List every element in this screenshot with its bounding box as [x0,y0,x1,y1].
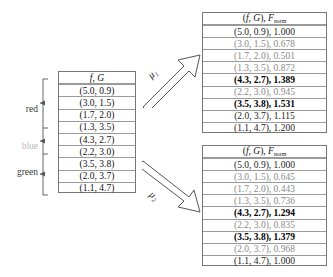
table-row: (5.0, 0.9), 1.000 [203,158,326,170]
result-cell-pair: (4.3, 2.7) [234,75,269,85]
table-row: (2.2, 3.0), 0.835 [203,219,326,231]
source-cell-pair: (4.3, 2.7) [80,135,115,145]
result-header-text: (f, G), Fnorm [243,13,287,24]
table-row: (3.0, 1.5), 0.645 [203,170,326,182]
result-table-bottom: (f, G), Fnorm (5.0, 0.9), 1.000 (3.0, 1.… [202,145,327,266]
result-cell-pair: (1.1, 4.7) [234,256,269,266]
result-table-top: (f, G), Fnorm (5.0, 0.9), 1.000 (3.0, 1.… [202,12,327,133]
table-row: (3.5, 3.8) [59,157,135,169]
result-cell-pair: (2.2, 3.0) [234,87,269,97]
result-cell-pair: (3.0, 1.5) [234,172,269,182]
table-row: (4.3, 2.7), 1.389 [203,73,326,85]
table-row: (4.3, 2.7) [59,133,135,145]
result-cell-pair: (1.7, 2.0) [234,51,269,61]
result-cell-value: 1.115 [274,111,295,121]
table-row: (3.5, 3.8), 1.531 [203,98,326,110]
table-row: (2.2, 3.0) [59,145,135,157]
result-cell-value: 1.294 [274,208,295,218]
table-row: (5.0, 0.9) [59,84,135,96]
table-row: (2.0, 3.7), 0.968 [203,243,326,255]
result-cell-pair: (5.0, 0.9) [234,160,269,170]
result-cell-pair: (2.0, 3.7) [234,244,269,254]
source-header-text: f, G [90,73,104,83]
group-brackets [40,78,60,196]
result-cell-value: 1.531 [274,99,295,109]
table-row: (2.0, 3.7) [59,170,135,182]
table-row: (1.3, 3.5), 0.736 [203,194,326,206]
source-cell-pair: (3.0, 1.5) [80,98,115,108]
result-cell-value: 1.389 [274,75,295,85]
result-cell-value: 1.379 [274,232,295,242]
source-cell-pair: (1.7, 2.0) [80,110,115,120]
result-cell-value: 1.000 [274,256,295,266]
result-cell-value: 1.000 [274,27,295,37]
result-cell-pair: (2.0, 3.7) [234,111,269,121]
result-cell-pair: (1.7, 2.0) [234,184,269,194]
table-row: (4.3, 2.7), 1.294 [203,206,326,218]
result-table-bottom-header: (f, G), Fnorm [203,146,326,158]
result-cell-value: 0.501 [274,51,295,61]
group-label-green: green [2,167,38,177]
result-cell-pair: (3.0, 1.5) [234,39,269,49]
table-row: (3.5, 3.8), 1.379 [203,231,326,243]
table-row: (1.3, 3.5), 0.872 [203,61,326,73]
table-row: (3.0, 1.5), 0.678 [203,37,326,49]
result-table-top-header: (f, G), Fnorm [203,13,326,25]
table-row: (3.0, 1.5) [59,96,135,108]
table-row: (1.1, 4.7) [59,182,135,194]
result-cell-value: 0.968 [274,244,295,254]
result-cell-value: 0.736 [274,196,295,206]
figure-canvas: red blue green f, G (5.0, 0.9) (3.0, 1.5… [0,0,333,277]
result-cell-value: 1.000 [274,160,295,170]
source-cell-pair: (1.1, 4.7) [80,183,115,193]
result-cell-value: 0.645 [274,172,295,182]
source-cell-pair: (1.3, 3.5) [80,122,115,132]
result-cell-value: 0.945 [274,87,295,97]
source-table: f, G (5.0, 0.9) (3.0, 1.5) (1.7, 2.0) (1… [58,71,136,193]
source-cell-pair: (3.5, 3.8) [80,159,115,169]
result-cell-pair: (2.2, 3.0) [234,220,269,230]
result-cell-pair: (4.3, 2.7) [234,208,269,218]
arrow-mu2-icon [142,160,204,216]
result-cell-pair: (1.1, 4.7) [234,123,269,133]
source-cell-pair: (5.0, 0.9) [80,86,115,96]
result-cell-pair: (3.5, 3.8) [234,232,269,242]
result-cell-pair: (3.5, 3.8) [234,99,269,109]
arrow-mu1-icon [142,52,204,108]
table-row: (1.1, 4.7), 1.200 [203,122,326,134]
source-table-header: f, G [59,72,135,84]
result-cell-pair: (1.3, 3.5) [234,63,269,73]
result-cell-value: 1.200 [274,123,295,133]
table-row: (1.7, 2.0), 0.443 [203,182,326,194]
source-cell-pair: (2.2, 3.0) [80,147,115,157]
table-row: (1.7, 2.0), 0.501 [203,49,326,61]
group-label-blue: blue [6,141,38,151]
table-row: (2.2, 3.0), 0.945 [203,86,326,98]
result-cell-pair: (5.0, 0.9) [234,27,269,37]
result-cell-value: 0.443 [274,184,295,194]
table-row: (2.0, 3.7), 1.115 [203,110,326,122]
result-cell-pair: (1.3, 3.5) [234,196,269,206]
source-cell-pair: (2.0, 3.7) [80,171,115,181]
result-cell-value: 0.678 [274,39,295,49]
result-cell-value: 0.872 [274,63,295,73]
table-row: (1.1, 4.7), 1.000 [203,255,326,267]
table-row: (5.0, 0.9), 1.000 [203,25,326,37]
table-row: (1.7, 2.0) [59,109,135,121]
table-row: (1.3, 3.5) [59,121,135,133]
result-cell-value: 0.835 [274,220,295,230]
result-header-text: (f, G), Fnorm [243,146,287,157]
group-label-red: red [6,104,38,114]
